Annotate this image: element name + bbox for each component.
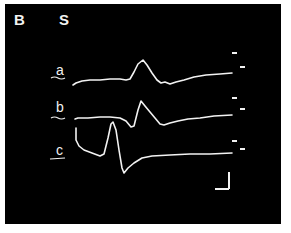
trace-plot (0, 0, 291, 233)
trace-b (75, 101, 232, 127)
trace-label-underline (50, 158, 65, 159)
trace-label-underline (51, 117, 65, 119)
scale-bar (215, 172, 229, 189)
trace-label-underline (51, 77, 65, 79)
trace-c (76, 122, 232, 173)
calibration-markers (232, 53, 245, 149)
trace-a (73, 60, 232, 85)
